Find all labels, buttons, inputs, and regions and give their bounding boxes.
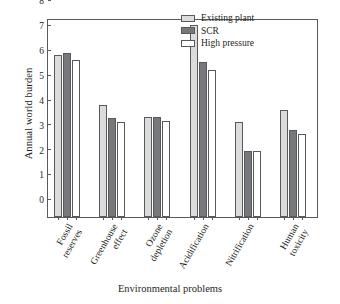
y-axis-tick-label: 4	[39, 96, 48, 106]
y-axis-tick-mark	[48, 0, 51, 1]
y-axis-tick-label: 3	[39, 121, 48, 131]
y-axis-tick: 0	[39, 190, 48, 208]
y-axis-tick: 4	[39, 91, 48, 109]
legend-swatch	[181, 15, 195, 22]
x-axis-tick-mark	[284, 217, 285, 220]
bar[interactable]	[190, 25, 198, 217]
bar[interactable]	[253, 151, 261, 217]
x-axis-tick-mark	[166, 217, 167, 220]
x-axis-tick-mark	[58, 217, 59, 220]
bar[interactable]	[99, 105, 107, 217]
y-axis-tick: 1	[39, 165, 48, 183]
y-axis-tick-label: 0	[39, 195, 48, 205]
x-axis-tick-mark	[157, 217, 158, 220]
legend-swatch	[181, 40, 195, 47]
bar[interactable]	[162, 121, 170, 217]
y-axis-tick: 2	[39, 140, 48, 158]
x-axis-tick-mark	[212, 217, 213, 220]
bar[interactable]	[289, 130, 297, 217]
bar[interactable]	[117, 122, 125, 217]
bar[interactable]	[144, 117, 152, 217]
bar[interactable]	[244, 151, 252, 217]
y-axis-tick: 5	[39, 66, 48, 84]
legend-label: SCR	[201, 25, 219, 38]
legend-label: Existing plant	[201, 12, 254, 25]
y-axis-tick: 8	[39, 0, 48, 9]
bar-group	[144, 20, 170, 217]
x-axis-title: Environmental problems	[0, 283, 340, 294]
bar[interactable]	[54, 55, 62, 217]
legend-swatch	[181, 27, 195, 34]
legend-item[interactable]: High pressure	[181, 37, 254, 50]
bar[interactable]	[108, 118, 116, 217]
x-axis-tick-mark	[203, 217, 204, 220]
x-axis-tick-mark	[103, 217, 104, 220]
y-axis-tick-label: 6	[39, 46, 48, 56]
bar-group	[99, 20, 125, 217]
legend-item[interactable]: SCR	[181, 25, 254, 38]
x-axis-tick-mark	[293, 217, 294, 220]
x-axis-tick-mark	[112, 217, 113, 220]
bar[interactable]	[235, 122, 243, 217]
y-axis-tick: 6	[39, 41, 48, 59]
y-axis-tick: 7	[39, 16, 48, 34]
x-axis-tick-mark	[148, 217, 149, 220]
y-axis-tick-label: 2	[39, 146, 48, 156]
bar-group	[54, 20, 80, 217]
x-axis-tick-mark	[67, 217, 68, 220]
x-axis-category-label: Nitrification	[212, 222, 256, 288]
legend-item[interactable]: Existing plant	[181, 12, 254, 25]
bar-group	[280, 20, 306, 217]
chart-legend: Existing plantSCRHigh pressure	[181, 12, 254, 50]
bar[interactable]	[199, 62, 207, 217]
x-axis-tick-mark	[248, 217, 249, 220]
y-axis-tick-label: 1	[39, 170, 48, 180]
y-axis-tick: 3	[39, 115, 48, 133]
bar[interactable]	[63, 53, 71, 217]
bar[interactable]	[72, 60, 80, 217]
y-axis-tick-label: 8	[39, 0, 48, 6]
bar[interactable]	[280, 110, 288, 217]
x-axis-tick-mark	[121, 217, 122, 220]
x-axis-tick-mark	[194, 217, 195, 220]
x-axis-tick-mark	[76, 217, 77, 220]
legend-label: High pressure	[201, 37, 254, 50]
y-axis-tick-label: 5	[39, 71, 48, 81]
x-axis-tick-mark	[302, 217, 303, 220]
x-axis-tick-mark	[257, 217, 258, 220]
bar[interactable]	[208, 70, 216, 217]
bar[interactable]	[153, 117, 161, 217]
chart-figure: Annual world burden 012345678 Fossil res…	[0, 0, 340, 304]
bar[interactable]	[298, 134, 306, 217]
y-axis-title: Annual world burden	[23, 34, 34, 194]
y-axis-tick-label: 7	[39, 21, 48, 31]
x-axis-tick-mark	[239, 217, 240, 220]
